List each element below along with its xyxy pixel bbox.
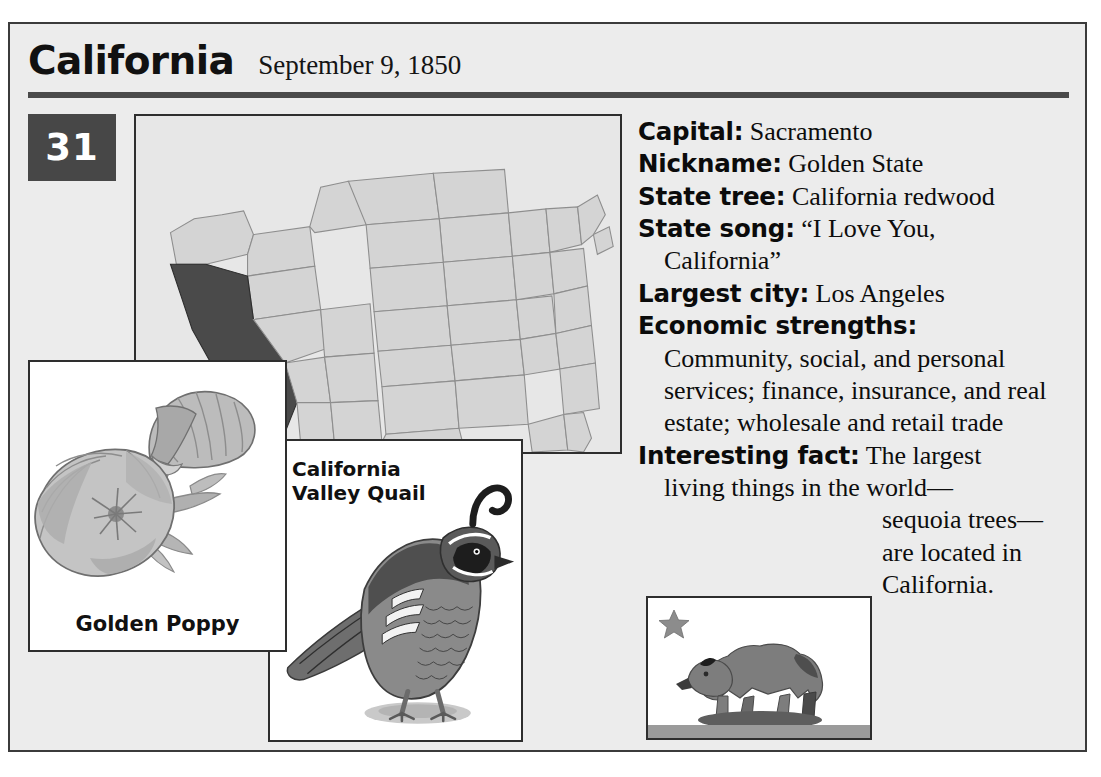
header-divider [28,92,1069,98]
page-title: California [28,38,234,83]
fact-economic-strengths: Economic strengths: [638,310,1074,342]
fact-interesting-fact-label: Interesting fact: [638,441,860,470]
poppy-illustration [30,362,285,588]
fact-capital-value: Sacramento [750,117,873,146]
fact-capital: Capital: Sacramento [638,116,1074,148]
state-bird-panel: California Valley Quail [268,439,523,742]
fact-state-tree-label: State tree: [638,182,785,211]
flag-bottom-stripe [648,725,870,738]
state-flag-panel: CALIFORNIA REPUBLIC [646,596,872,740]
fact-economic-strengths-label: Economic strengths: [638,311,917,340]
card-header: California September 9, 1850 [28,38,1068,100]
state-bird-caption-line1: California [292,457,426,481]
state-flower-caption: Golden Poppy [30,612,285,636]
state-bird-caption: California Valley Quail [292,457,426,506]
state-flower-panel: Golden Poppy [28,360,287,652]
fact-interesting-fact: Interesting fact: The largest [638,440,1074,472]
state-facts-list: Capital: Sacramento Nickname: Golden Sta… [638,116,1074,660]
fact-nickname-label: Nickname: [638,149,782,178]
statehood-date: September 9, 1850 [258,50,461,81]
fact-state-tree: State tree: California redwood [638,181,1074,213]
fact-interesting-fact-line2: living things in the world— [638,472,1074,504]
fact-economic-strengths-body: Community, social, and personal services… [638,343,1074,440]
statehood-order-badge: 31 [28,114,116,181]
fact-state-song-label: State song: [638,214,795,243]
fact-state-song-value-cont: California” [664,246,781,275]
fact-largest-city-value: Los Angeles [816,279,945,308]
fact-state-song: State song: “I Love You, [638,213,1074,245]
poppy-flower-icon [30,362,285,588]
fact-interesting-fact-line1: The largest [866,441,982,470]
fact-state-song-value: “I Love You, [801,214,935,243]
fact-nickname: Nickname: Golden State [638,148,1074,180]
fact-capital-label: Capital: [638,117,743,146]
fact-nickname-value: Golden State [788,149,923,178]
fact-state-tree-value: California redwood [792,182,995,211]
fact-largest-city-label: Largest city: [638,279,809,308]
fact-largest-city: Largest city: Los Angeles [638,278,1074,310]
state-fact-card: California September 9, 1850 31 [8,22,1087,752]
california-flag-icon: CALIFORNIA REPUBLIC [648,598,870,738]
state-bird-caption-line2: Valley Quail [292,481,426,505]
fact-state-song-continued: California” [638,245,1074,277]
